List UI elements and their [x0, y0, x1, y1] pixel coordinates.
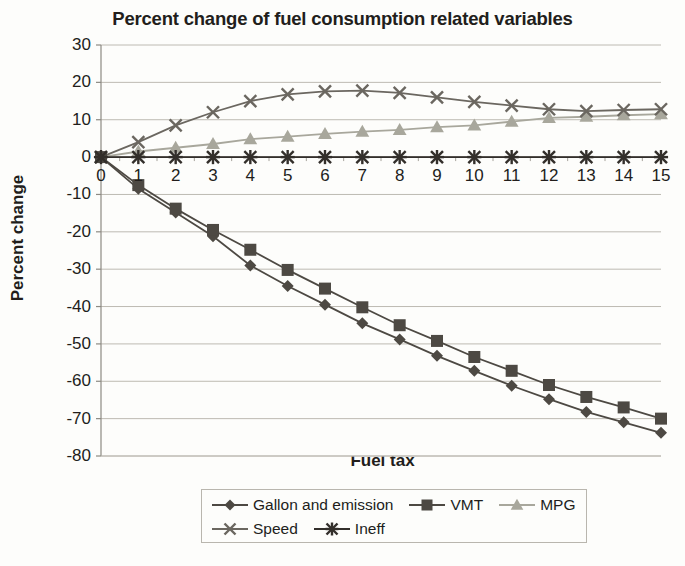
marker-asterisk — [131, 150, 145, 164]
x-tick-label: 6 — [305, 167, 345, 184]
marker-square — [468, 351, 480, 363]
y-tick-label: -80 — [49, 447, 91, 464]
x-tick-label: 14 — [604, 167, 644, 184]
y-tick-label: 20 — [49, 73, 91, 90]
y-tick-label: -30 — [49, 260, 91, 277]
marker-square — [655, 413, 667, 425]
marker-square — [580, 391, 592, 403]
marker-asterisk — [430, 150, 444, 164]
legend-swatch-x-icon — [210, 520, 250, 538]
marker-asterisk — [505, 150, 519, 164]
x-tick-label: 5 — [268, 167, 308, 184]
chart-container: Percent change of fuel consumption relat… — [0, 0, 685, 566]
marker-square — [356, 301, 368, 313]
marker-asterisk — [579, 150, 593, 164]
marker-asterisk — [318, 150, 332, 164]
x-tick-label: 13 — [566, 167, 606, 184]
x-tick-label: 15 — [641, 167, 681, 184]
x-tick-label: 8 — [380, 167, 420, 184]
x-tick-label: 4 — [230, 167, 270, 184]
marker-asterisk — [206, 150, 220, 164]
y-tick-label: -50 — [49, 335, 91, 352]
chart-legend: Gallon and emissionVMTMPG SpeedIneff — [201, 489, 587, 543]
legend-label: Speed — [253, 520, 298, 538]
y-tick-label: 30 — [49, 36, 91, 53]
marker-asterisk — [355, 150, 369, 164]
x-tick-label: 7 — [342, 167, 382, 184]
y-tick-label: -60 — [49, 372, 91, 389]
legend-entry[interactable]: MPG — [497, 496, 575, 514]
marker-square — [282, 264, 294, 276]
marker-square — [319, 283, 331, 295]
marker-asterisk — [542, 150, 556, 164]
y-tick-label: -10 — [49, 185, 91, 202]
x-tick-label: 3 — [193, 167, 233, 184]
marker-square — [618, 401, 630, 413]
marker-asterisk — [281, 150, 295, 164]
legend-label: Ineff — [355, 520, 385, 538]
marker-asterisk — [654, 150, 668, 164]
y-tick-label: -40 — [49, 298, 91, 315]
plot-area — [0, 0, 685, 566]
y-tick-label: -20 — [49, 223, 91, 240]
y-tick-label: -70 — [49, 410, 91, 427]
x-tick-label: 11 — [492, 167, 532, 184]
legend-swatch-diamond-icon — [210, 496, 250, 514]
x-tick-label: 10 — [454, 167, 494, 184]
legend-swatch-asterisk-icon — [312, 520, 352, 538]
y-tick-label: 10 — [49, 111, 91, 128]
x-tick-label: 9 — [417, 167, 457, 184]
legend-entry[interactable]: VMT — [407, 496, 483, 514]
legend-label: VMT — [450, 496, 483, 514]
marker-square — [422, 500, 433, 511]
marker-square — [394, 319, 406, 331]
legend-entry[interactable]: Gallon and emission — [210, 496, 393, 514]
marker-asterisk — [467, 150, 481, 164]
x-tick-label: 2 — [156, 167, 196, 184]
marker-diamond — [225, 500, 236, 511]
marker-asterisk — [243, 150, 257, 164]
marker-asterisk — [325, 523, 338, 536]
marker-square — [207, 224, 219, 236]
marker-square — [506, 365, 518, 377]
legend-entry[interactable]: Speed — [210, 520, 298, 538]
marker-asterisk — [617, 150, 631, 164]
legend-swatch-square-icon — [407, 496, 447, 514]
legend-label: MPG — [540, 496, 575, 514]
legend-entry[interactable]: Ineff — [312, 520, 385, 538]
marker-asterisk — [393, 150, 407, 164]
legend-row: SpeedIneff — [210, 517, 578, 541]
x-tick-label: 0 — [81, 167, 121, 184]
marker-asterisk — [169, 150, 183, 164]
marker-asterisk — [94, 150, 108, 164]
x-tick-label: 12 — [529, 167, 569, 184]
legend-row: Gallon and emissionVMTMPG — [210, 493, 578, 517]
x-tick-label: 1 — [118, 167, 158, 184]
legend-label: Gallon and emission — [253, 496, 393, 514]
marker-square — [543, 379, 555, 391]
legend-swatch-triangle-icon — [497, 496, 537, 514]
marker-square — [431, 335, 443, 347]
y-tick-label: 0 — [49, 148, 91, 165]
marker-square — [170, 203, 182, 215]
marker-square — [244, 244, 256, 256]
